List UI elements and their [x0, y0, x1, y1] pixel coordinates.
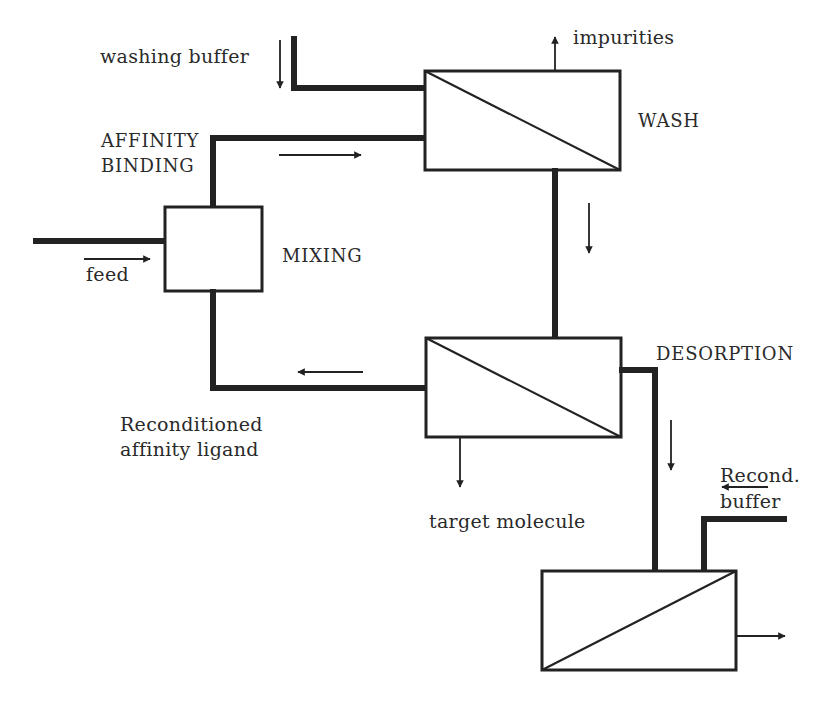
affinity-binding-line1: AFFINITY — [101, 128, 199, 153]
desorption-membrane — [426, 338, 621, 437]
process-flow-diagram — [0, 0, 834, 728]
affinity-binding-pipe — [213, 138, 426, 208]
mixing-label: MIXING — [282, 247, 362, 265]
reconditioned-line2: affinity ligand — [120, 437, 263, 462]
washing-buffer-pipe — [294, 36, 426, 88]
wash-unit — [425, 71, 620, 170]
reconditioned-line1: Reconditioned — [120, 412, 263, 437]
wash-membrane — [425, 71, 620, 170]
affinity-binding-line2: BINDING — [101, 153, 199, 178]
recondition-unit — [542, 571, 736, 670]
desorption-to-recondition-pipe — [619, 370, 655, 572]
reconditioned-ligand-pipe — [213, 289, 427, 388]
desorption-label: DESORPTION — [656, 345, 794, 363]
feed-label: feed — [86, 265, 129, 284]
impurities-label: impurities — [573, 28, 674, 47]
recondition-membrane — [542, 571, 736, 670]
reconditioned-ligand-label: Reconditioned affinity ligand — [120, 412, 263, 462]
wash-label: WASH — [638, 112, 700, 130]
desorption-unit — [426, 338, 621, 437]
affinity-binding-label: AFFINITY BINDING — [101, 128, 199, 178]
recond-buffer-label: Recond. buffer — [720, 459, 800, 517]
washing-buffer-label: washing buffer — [100, 47, 249, 66]
target-molecule-label: target molecule — [429, 512, 586, 531]
recond-buffer-pipe — [704, 519, 787, 572]
mixing-unit — [165, 207, 262, 291]
